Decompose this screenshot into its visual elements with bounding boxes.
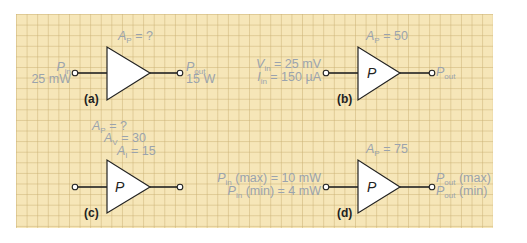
amplifier-triangle bbox=[107, 47, 150, 100]
figure-tag: (a) bbox=[84, 92, 99, 106]
input-terminal-icon bbox=[323, 184, 329, 190]
output-label-line-1: Pout bbox=[436, 65, 456, 81]
figure-tag: (d) bbox=[337, 206, 352, 220]
figure-d: AP = 75 P Pin (max) = 10 mW Pin (min) = … bbox=[217, 142, 491, 220]
amplifier-triangle bbox=[358, 160, 400, 213]
input-terminal-icon bbox=[72, 70, 78, 76]
output-label-line-2: 15 W bbox=[186, 72, 215, 86]
amplifier-power-label: P bbox=[367, 179, 377, 195]
amplifier-diagrams: AP = ? Pin 25 mW Pout 15 W (a) AP = 50 P… bbox=[0, 0, 527, 243]
gain-label-ap: AP = 75 bbox=[365, 142, 408, 158]
figure-tag: (b) bbox=[337, 92, 352, 106]
output-terminal-icon bbox=[429, 184, 435, 190]
output-terminal-icon bbox=[429, 70, 435, 76]
output-terminal-icon bbox=[177, 184, 183, 190]
amplifier-power-label: P bbox=[367, 65, 377, 81]
figure-c: AP = ? AV = 30 AI = 15 P (c) bbox=[72, 119, 183, 220]
input-terminal-icon bbox=[72, 184, 78, 190]
output-label-line-2: Pout (min) bbox=[436, 184, 487, 200]
figure-b: AP = 50 P Vin = 25 mV Iin = 150 µA Pout … bbox=[256, 29, 456, 106]
input-terminal-icon bbox=[323, 70, 329, 76]
input-label-line-2: Pin (min) = 4 mW bbox=[228, 184, 322, 200]
figure-a: AP = ? Pin 25 mW Pout 15 W (a) bbox=[31, 29, 215, 106]
amplifier-power-label: P bbox=[115, 179, 125, 195]
gain-label-ap: AP = ? bbox=[117, 29, 153, 45]
input-label-line-2: 25 mW bbox=[31, 72, 71, 86]
amplifier-triangle bbox=[358, 47, 400, 100]
amplifier-triangle bbox=[107, 160, 150, 213]
input-label-line-2: Iin = 150 µA bbox=[257, 70, 321, 86]
gain-label-ap: AP = 50 bbox=[365, 29, 408, 45]
figure-tag: (c) bbox=[84, 206, 99, 220]
output-terminal-icon bbox=[177, 70, 183, 76]
gain-label-ai: AI = 15 bbox=[116, 144, 156, 160]
